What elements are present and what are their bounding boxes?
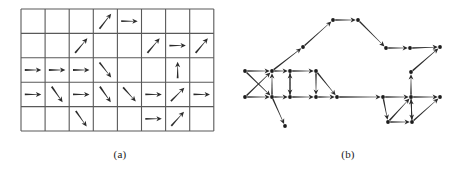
graph-edge	[274, 69, 288, 74]
edge-shaft	[412, 50, 436, 71]
arrow-shaft	[170, 90, 182, 102]
graph-edge	[272, 46, 302, 71]
edge-shaft	[304, 24, 329, 46]
arrow-head	[106, 12, 113, 19]
arrow-head	[106, 72, 113, 79]
graph-edge	[358, 20, 386, 48]
edge-shaft	[385, 96, 405, 98]
panel-b-graph-figure	[232, 0, 464, 140]
arrow-shaft	[49, 69, 61, 71]
edge-shaft	[318, 96, 331, 98]
grid-arrow-up-right	[98, 12, 114, 30]
grid-arrow-right	[73, 68, 90, 73]
figure-root: (a) (b)	[0, 0, 464, 175]
edge-shaft	[388, 47, 404, 49]
graph-edge	[314, 73, 319, 95]
grid-arrow-right	[169, 43, 186, 48]
graph-node	[335, 95, 339, 99]
grid-arrow-right	[145, 92, 162, 97]
panel-b-caption: (b)	[328, 148, 368, 160]
edge-arrowhead	[384, 114, 390, 120]
grid-arrow-right	[121, 19, 138, 24]
grid-arrow-right	[25, 92, 42, 97]
edge-shaft	[383, 99, 388, 116]
graph-edge	[411, 47, 440, 73]
edge-shaft	[413, 101, 436, 122]
graph-edge	[288, 73, 293, 95]
grid-arrow-right	[49, 68, 66, 73]
graph-edge	[339, 95, 381, 100]
edge-shaft	[292, 70, 310, 72]
graph-edge	[335, 18, 356, 23]
graph-node	[408, 46, 412, 50]
edge-shaft	[292, 96, 310, 98]
arrow-shaft	[169, 45, 181, 47]
graph-node	[283, 124, 287, 128]
grid-arrow-down-right	[98, 85, 113, 103]
graph-node	[356, 18, 360, 22]
arrow-shaft	[73, 69, 85, 71]
arrow-shaft	[74, 41, 85, 53]
graph-edge	[247, 95, 270, 100]
edge-shaft	[315, 73, 317, 91]
arrow-shaft	[75, 111, 85, 124]
graph-edge	[274, 95, 288, 100]
grid-arrow-up-right	[169, 110, 185, 127]
graph-node	[243, 95, 247, 99]
graph-node	[270, 95, 274, 99]
graph-node	[314, 69, 318, 73]
edge-shaft	[247, 70, 266, 72]
grid-arrow-up-right	[73, 37, 89, 55]
edge-shaft	[410, 78, 412, 95]
edge-shaft	[413, 96, 434, 98]
graph-edge	[270, 73, 275, 95]
grid-arrow-up	[175, 62, 180, 79]
edge-shaft	[246, 75, 268, 96]
arrow-shaft	[51, 86, 61, 99]
graph-edge	[390, 120, 410, 125]
graph-edge	[385, 95, 409, 100]
edge-shaft	[274, 96, 284, 98]
graph-node	[381, 95, 385, 99]
graph-node	[314, 95, 318, 99]
graph-node	[409, 95, 413, 99]
panel-a-grid-figure	[0, 0, 232, 140]
graph-edge	[292, 95, 314, 100]
panel-a-caption: (a)	[100, 148, 140, 160]
arrow-shaft	[25, 69, 37, 71]
arrow-shaft	[99, 62, 110, 75]
arrow-head	[57, 96, 64, 103]
graph-node	[438, 45, 442, 49]
grid-arrow-down-right	[50, 85, 65, 103]
graph-edge	[318, 95, 335, 100]
graph-edge	[316, 71, 338, 97]
edge-shaft	[271, 77, 273, 95]
graph-node	[270, 69, 274, 73]
edge-shaft	[246, 72, 268, 93]
grid-arrow-right	[25, 68, 42, 73]
edge-shaft	[412, 46, 434, 48]
arrow-shaft	[25, 94, 37, 96]
graph-edge	[412, 97, 440, 123]
edge-shaft	[273, 50, 298, 70]
graph-edge	[271, 98, 287, 125]
graph-edge	[409, 99, 415, 120]
graph-edge	[292, 69, 314, 74]
edge-shaft	[339, 96, 377, 98]
arrow-shaft	[122, 87, 133, 99]
arrow-head	[106, 96, 113, 103]
arrow-shaft	[73, 94, 85, 96]
grid-arrow-up-right	[146, 37, 162, 55]
graph-node	[331, 18, 335, 22]
grid-arrow-up-right	[169, 86, 186, 103]
edge-shaft	[274, 70, 284, 72]
graph-edge	[409, 74, 414, 95]
graph-node	[386, 120, 390, 124]
grid-arrow-down-right	[121, 86, 137, 103]
arrow-shaft	[99, 16, 110, 29]
arrow-shaft	[145, 118, 157, 120]
grid-arrow-down-right	[98, 61, 114, 79]
arrow-shaft	[194, 94, 206, 96]
arrow-shaft	[121, 20, 133, 22]
edge-shaft	[390, 121, 406, 123]
